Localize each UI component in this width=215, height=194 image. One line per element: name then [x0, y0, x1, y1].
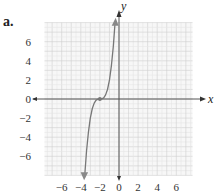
cubic-graph: xy−6−4−202466420−2−4−6 — [0, 0, 215, 194]
curve-arrow-up-icon — [112, 18, 119, 26]
y-tick-label: 2 — [26, 74, 32, 86]
x-tick-label: 4 — [154, 181, 160, 193]
y-tick-label: −6 — [19, 150, 31, 162]
curve-arrow-down-icon — [81, 172, 89, 180]
x-tick-label: 6 — [174, 181, 180, 193]
y-tick-label: −2 — [19, 112, 31, 124]
y-tick-label: 6 — [26, 36, 32, 48]
x-axis-arrow-left-icon — [32, 97, 37, 101]
y-axis-label: y — [120, 0, 127, 13]
x-tick-label: 2 — [135, 181, 141, 193]
y-tick-label: 0 — [26, 93, 32, 105]
y-tick-label: 4 — [26, 55, 32, 67]
inflection-point — [98, 97, 102, 101]
x-tick-label: −6 — [56, 181, 68, 193]
x-tick-label: 0 — [116, 181, 122, 193]
x-tick-label: −4 — [75, 181, 87, 193]
x-tick-label: −2 — [94, 181, 106, 193]
y-tick-label: −4 — [19, 131, 31, 143]
x-axis-label: x — [207, 92, 214, 106]
x-axis-arrow-right-icon — [200, 97, 206, 102]
